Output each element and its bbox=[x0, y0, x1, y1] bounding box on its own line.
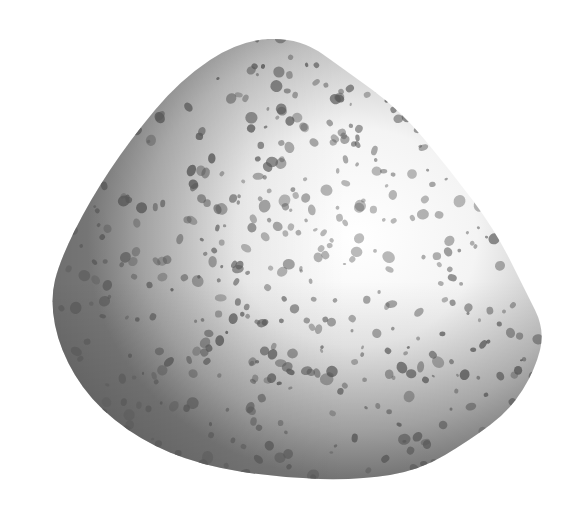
speckle bbox=[489, 163, 500, 174]
speckle bbox=[540, 394, 545, 400]
speckle bbox=[168, 54, 174, 59]
speckle bbox=[520, 443, 532, 456]
speckle bbox=[498, 55, 507, 64]
speckle bbox=[55, 432, 60, 436]
speckle bbox=[527, 195, 533, 203]
speckle bbox=[208, 482, 214, 487]
speckle bbox=[92, 62, 103, 73]
speckle bbox=[53, 384, 66, 397]
speckle bbox=[97, 90, 103, 97]
speckle bbox=[545, 244, 548, 246]
speckle bbox=[134, 36, 142, 44]
speckle bbox=[543, 330, 552, 340]
speckle bbox=[533, 412, 539, 418]
speckle bbox=[49, 404, 62, 416]
speckle bbox=[410, 111, 424, 124]
speckle bbox=[504, 435, 509, 440]
speckle bbox=[451, 150, 459, 158]
speckle bbox=[46, 220, 57, 231]
speckle bbox=[515, 45, 530, 60]
speckle bbox=[219, 471, 236, 487]
speckle bbox=[510, 58, 518, 65]
speckle bbox=[524, 78, 528, 82]
speckle bbox=[74, 452, 79, 456]
speckle bbox=[494, 101, 508, 116]
speckle bbox=[465, 179, 469, 183]
speckle bbox=[378, 42, 391, 54]
speckle bbox=[460, 174, 468, 183]
speckle bbox=[427, 467, 435, 475]
speckle bbox=[326, 32, 331, 38]
speckle bbox=[51, 394, 62, 405]
speckle bbox=[353, 36, 361, 45]
speckle bbox=[54, 458, 58, 462]
speckle bbox=[93, 412, 107, 426]
speckle bbox=[391, 475, 401, 484]
speckle bbox=[112, 455, 121, 465]
speckle bbox=[530, 231, 542, 242]
speckle bbox=[360, 73, 365, 76]
speckle bbox=[518, 237, 526, 246]
speckle bbox=[194, 57, 201, 64]
speckle bbox=[493, 93, 508, 108]
speckle bbox=[534, 434, 546, 445]
speckle bbox=[73, 440, 78, 445]
speckle bbox=[73, 78, 77, 82]
speckle bbox=[520, 200, 527, 207]
speckle bbox=[483, 150, 489, 156]
speckle bbox=[126, 93, 132, 100]
speckle bbox=[440, 70, 451, 81]
speckle bbox=[396, 69, 406, 79]
speckle bbox=[513, 156, 517, 159]
speckle bbox=[329, 451, 333, 453]
speckle bbox=[512, 433, 526, 447]
speckle bbox=[52, 421, 59, 428]
speckle bbox=[519, 88, 528, 98]
speckle bbox=[221, 36, 233, 47]
speckle bbox=[468, 176, 474, 182]
speckle bbox=[82, 409, 95, 422]
speckle bbox=[523, 161, 529, 168]
speckle bbox=[235, 475, 240, 480]
speckle bbox=[475, 169, 486, 180]
speckle bbox=[492, 193, 501, 203]
speckle bbox=[53, 238, 60, 245]
speckle bbox=[197, 471, 210, 484]
speckle bbox=[50, 96, 61, 108]
speckle bbox=[486, 137, 498, 148]
speckle bbox=[68, 180, 80, 192]
speckle bbox=[491, 427, 497, 434]
speckle bbox=[482, 45, 497, 60]
speckle bbox=[48, 374, 52, 379]
speckle bbox=[226, 39, 230, 42]
speckle bbox=[103, 125, 115, 138]
speckle bbox=[75, 67, 90, 83]
speckle bbox=[201, 32, 209, 42]
speckle bbox=[514, 366, 522, 375]
speckle bbox=[501, 217, 505, 221]
speckle bbox=[494, 141, 502, 149]
speckle bbox=[530, 458, 539, 467]
speckle bbox=[76, 146, 83, 154]
speckle bbox=[409, 66, 418, 76]
speckle bbox=[485, 70, 488, 74]
speckle bbox=[533, 442, 538, 446]
speckle bbox=[429, 469, 437, 477]
speckle bbox=[93, 56, 106, 68]
speckle bbox=[532, 97, 542, 106]
speckle bbox=[487, 62, 493, 66]
speckle bbox=[485, 444, 494, 452]
speckle bbox=[445, 48, 452, 54]
speckle bbox=[537, 164, 541, 168]
speckle bbox=[482, 115, 498, 132]
speckle bbox=[521, 97, 535, 112]
speckle bbox=[78, 34, 85, 41]
speckle bbox=[73, 439, 82, 448]
speckle bbox=[541, 290, 548, 297]
speckle bbox=[153, 463, 170, 480]
speckle bbox=[537, 90, 547, 101]
speckle bbox=[81, 123, 96, 138]
speckle bbox=[363, 50, 369, 57]
speckle bbox=[474, 441, 490, 457]
speckle bbox=[114, 471, 126, 483]
